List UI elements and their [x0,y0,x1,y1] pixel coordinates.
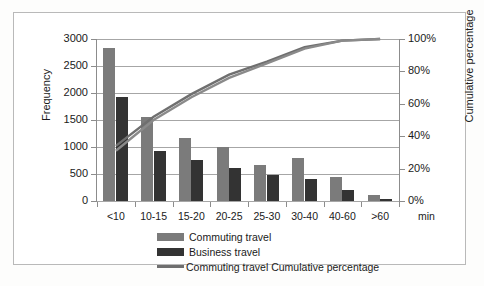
y-axis-left-ticklabel: 2000 [36,87,88,98]
plot-area [97,39,399,201]
chart-frame: Frequency Cumulative percentage 05001000… [13,12,466,265]
y-axis-left-tick [91,201,96,202]
x-axis-ticklabel: >60 [361,210,399,222]
y-axis-right-tick [400,39,405,40]
y-axis-right-ticklabel: 40% [408,130,430,141]
y-axis-left-tick [91,120,96,121]
commuting-cumulative-line [116,39,380,146]
y-axis-right-tick [400,169,405,170]
x-axis-ticklabel: 40-60 [324,210,362,222]
y-axis-right-tick [400,201,405,202]
x-axis-ticklabel: <10 [97,210,135,222]
y-axis-left-tick [91,174,96,175]
business-cumulative-line [116,39,380,151]
y-axis-right-ticklabel: 20% [408,163,430,174]
legend-label-business: Business travel [189,246,260,258]
y-axis-right-ticklabel: 100% [408,33,436,44]
y-axis-left-ticklabel: 1500 [36,114,88,125]
y-axis-left-ticklabel: 2500 [36,60,88,71]
y-axis-left-tick [91,66,96,67]
chart-legend: Commuting travel Business travel Commuti… [157,229,379,274]
x-axis-ticklabel: 15-20 [173,210,211,222]
y-axis-right-ticklabel: 0% [408,195,424,206]
y-axis-left-tick [91,39,96,40]
y-axis-left-ticklabel: 500 [36,168,88,179]
legend-swatch-icon-commuting [157,233,184,241]
y-axis-right-title: Cumulative percentage [463,0,475,146]
y-axis-right-ticklabel: 60% [408,98,430,109]
legend-item-business-travel: Business travel [157,244,379,259]
x-axis-tick [97,202,98,207]
x-axis-tick [210,202,211,207]
legend-swatch-icon-business [157,248,184,256]
legend-item-commuting-travel: Commuting travel [157,229,379,244]
legend-line-icon-cumulative [157,265,184,268]
x-axis-tick [324,202,325,207]
x-axis-tick [173,202,174,207]
legend-item-cumulative-percentage: Commuting travel Cumulative percentage [157,259,379,274]
y-axis-left-tick [91,147,96,148]
y-axis-right-tick [400,104,405,105]
y-axis-right-tick [400,136,405,137]
cumulative-line-series-group [97,39,399,201]
y-axis-right-ticklabel: 80% [408,65,430,76]
y-axis-left-tick [91,93,96,94]
x-axis-ticklabel: 30-40 [286,210,324,222]
x-axis-ticklabel: 20-25 [210,210,248,222]
y-axis-left-ticklabel: 3000 [36,33,88,44]
legend-label-commuting: Commuting travel [189,231,271,243]
x-axis-tick [248,202,249,207]
x-axis-ticklabel: 25-30 [248,210,286,222]
x-axis-tick [399,202,400,207]
y-axis-right-tick [400,71,405,72]
x-axis-ticklabel: 10-15 [135,210,173,222]
y-axis-left-ticklabel: 1000 [36,141,88,152]
x-axis-tick [135,202,136,207]
x-axis-unit-label: min [418,210,435,222]
x-axis-tick [361,202,362,207]
y-axis-left-ticklabel: 0 [36,195,88,206]
legend-label-cumulative: Commuting travel Cumulative percentage [186,261,379,273]
x-axis-tick [286,202,287,207]
y-axis-right-line [399,39,400,202]
